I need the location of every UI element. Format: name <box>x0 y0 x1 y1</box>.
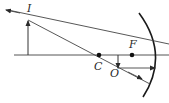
ray-diagram: I C O F <box>0 0 169 103</box>
label-image: I <box>26 2 32 15</box>
ray-back-arrow <box>6 10 20 13</box>
label-f: F <box>128 38 137 51</box>
ray-c-arrow <box>128 72 142 79</box>
label-c: C <box>94 60 103 73</box>
ray-through-c <box>28 20 150 84</box>
focal-point <box>130 53 135 58</box>
label-o: O <box>110 67 119 80</box>
center-of-curvature-point <box>97 53 102 58</box>
ray-upper <box>8 10 169 44</box>
